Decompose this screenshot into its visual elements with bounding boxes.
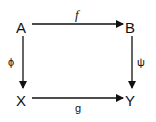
node-y: Y [125, 92, 135, 109]
commutative-diagram: A B X Y f ϕ ψ g [0, 0, 156, 122]
label-g: g [75, 102, 81, 114]
label-phi: ϕ [8, 56, 14, 68]
label-f: f [75, 7, 81, 22]
node-a: A [16, 19, 26, 36]
node-b: B [125, 19, 135, 36]
node-x: X [16, 92, 26, 109]
label-psi: ψ [137, 56, 145, 68]
